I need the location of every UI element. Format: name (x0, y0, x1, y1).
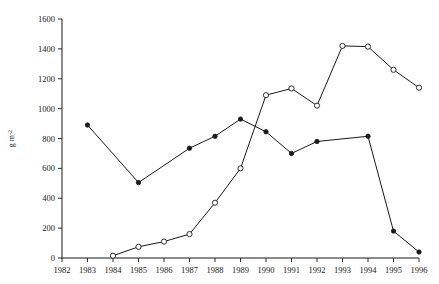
data-point-open-circle-series (110, 253, 115, 258)
data-point-open-circle-series (161, 239, 166, 244)
y-tick-label: 1000 (38, 104, 55, 114)
series-line-filled-circle-series (88, 119, 420, 252)
data-point-open-circle-series (187, 232, 192, 237)
x-tick-label: 1983 (79, 265, 96, 275)
x-tick-label: 1984 (105, 265, 123, 275)
x-tick-label: 1987 (181, 265, 198, 275)
data-point-open-circle-series (416, 85, 421, 90)
data-point-filled-circle-series (264, 130, 268, 134)
y-tick-label: 200 (42, 223, 55, 233)
x-tick-label: 1990 (258, 265, 275, 275)
x-tick-label: 1986 (156, 265, 173, 275)
data-point-open-circle-series (391, 67, 396, 72)
data-point-open-circle-series (314, 103, 319, 108)
data-point-filled-circle-series (213, 134, 217, 138)
data-point-filled-circle-series (289, 151, 293, 155)
series-line-open-circle-series (113, 46, 419, 256)
data-point-open-circle-series (136, 244, 141, 249)
data-point-filled-circle-series (238, 117, 242, 121)
data-point-open-circle-series (365, 44, 370, 49)
data-point-open-circle-series (289, 86, 294, 91)
y-tick-label: 800 (42, 134, 55, 144)
x-tick-label: 1996 (411, 265, 428, 275)
y-tick-label: 1600 (38, 14, 55, 24)
x-tick-label: 1988 (207, 265, 224, 275)
x-tick-label: 1994 (360, 265, 378, 275)
chart-series-group (85, 43, 421, 258)
data-point-filled-circle-series (366, 134, 370, 138)
data-point-filled-circle-series (85, 123, 89, 127)
y-tick-label: 0 (51, 253, 55, 263)
x-tick-label: 1995 (385, 265, 402, 275)
x-tick-label: 1991 (283, 265, 300, 275)
data-point-filled-circle-series (417, 250, 421, 254)
x-tick-label: 1992 (309, 265, 326, 275)
data-point-open-circle-series (340, 43, 345, 48)
y-tick-label: 1200 (38, 74, 55, 84)
y-axis: 02004006008001000120014001600 (38, 14, 62, 263)
chart-plot-area: 02004006008001000120014001600 1982198319… (0, 0, 439, 284)
x-tick-label: 1993 (334, 265, 351, 275)
y-axis-label: g m-2 (7, 130, 17, 147)
data-point-open-circle-series (263, 93, 268, 98)
data-point-filled-circle-series (315, 139, 319, 143)
x-tick-label: 1982 (54, 265, 71, 275)
chart-figure: 02004006008001000120014001600 1982198319… (0, 0, 439, 284)
y-tick-label: 400 (42, 193, 55, 203)
data-point-filled-circle-series (136, 180, 140, 184)
y-axis-label-text: g m-2 (7, 130, 17, 147)
data-point-filled-circle-series (391, 229, 395, 233)
x-tick-label: 1985 (130, 265, 147, 275)
data-point-open-circle-series (238, 166, 243, 171)
x-tick-label: 1989 (232, 265, 249, 275)
x-axis: 1982198319841985198619871988198919901991… (54, 258, 428, 275)
y-tick-label: 1400 (38, 44, 55, 54)
data-point-filled-circle-series (187, 146, 191, 150)
data-point-open-circle-series (212, 200, 217, 205)
y-tick-label: 600 (42, 163, 55, 173)
